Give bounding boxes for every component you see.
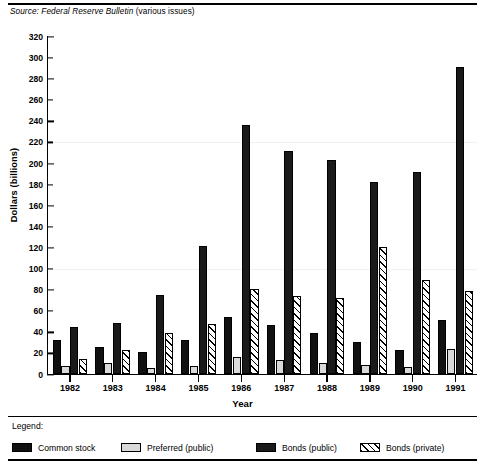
- bar-1984-bonds-private: [165, 333, 173, 374]
- x-tick-label-1985: 1985: [175, 383, 221, 393]
- y-tick-label: 100: [9, 264, 43, 274]
- x-tick-label-1986: 1986: [218, 383, 264, 393]
- x-tick-mark: [369, 375, 370, 382]
- bar-1989-preferred-public: [361, 365, 369, 374]
- x-tick-label-1991: 1991: [433, 383, 479, 393]
- bar-1990-common-stock: [395, 350, 403, 374]
- bar-1987-common-stock: [267, 325, 275, 374]
- legend-swatch-icon: [12, 443, 32, 452]
- bar-1988-bonds-private: [336, 298, 344, 374]
- x-tick-mark: [112, 375, 113, 382]
- y-tick-label: 0: [9, 370, 43, 380]
- source-note: Source: Federal Reserve Bulletin (variou…: [10, 7, 195, 16]
- x-tick-mark: [241, 375, 242, 382]
- x-tick-label-1983: 1983: [90, 383, 136, 393]
- y-tick-mark: [47, 374, 54, 375]
- bar-1987-bonds-private: [293, 296, 301, 374]
- y-tick-label: 260: [9, 95, 43, 105]
- legend-item-common-stock: Common stock: [12, 441, 95, 454]
- legend-items: Common stockPreferred (public)Bonds (pub…: [12, 441, 472, 455]
- bar-1990-preferred-public: [404, 367, 412, 374]
- legend-swatch-icon: [360, 443, 380, 452]
- bar-1985-bonds-public: [199, 246, 207, 374]
- bar-1983-bonds-private: [122, 350, 130, 374]
- bar-1983-preferred-public: [104, 363, 112, 374]
- bar-1985-bonds-private: [208, 324, 216, 374]
- bar-1986-preferred-public: [233, 357, 241, 374]
- bar-1984-preferred-public: [147, 368, 155, 374]
- bar-1982-common-stock: [53, 340, 61, 374]
- source-prefix: Source:: [10, 7, 39, 16]
- legend-label: Common stock: [38, 443, 95, 453]
- bars-layer: [49, 36, 477, 374]
- bar-1990-bonds-public: [413, 172, 421, 375]
- bar-1983-bonds-public: [113, 323, 121, 374]
- y-tick-label: 40: [9, 327, 43, 337]
- x-tick-mark: [455, 375, 456, 382]
- bar-1982-bonds-public: [70, 327, 78, 374]
- x-tick-label-1989: 1989: [347, 383, 393, 393]
- legend-item-bonds-private: Bonds (private): [360, 441, 444, 454]
- x-tick-label-1988: 1988: [304, 383, 350, 393]
- top-divider: [8, 3, 477, 5]
- x-tick-mark: [69, 375, 70, 382]
- bar-1991-bonds-public: [456, 67, 464, 374]
- bar-1986-bonds-private: [250, 289, 258, 374]
- x-tick-mark: [284, 375, 285, 382]
- y-tick-label: 80: [9, 285, 43, 295]
- legend-item-preferred-public: Preferred (public): [121, 441, 213, 454]
- legend-swatch-icon: [121, 443, 141, 452]
- bar-1987-preferred-public: [276, 360, 284, 374]
- bar-1986-bonds-public: [242, 125, 250, 374]
- y-tick-label: 140: [9, 222, 43, 232]
- y-tick-label: 160: [9, 201, 43, 211]
- bar-1989-bonds-private: [379, 247, 387, 374]
- x-tick-mark: [326, 375, 327, 382]
- legend-label: Preferred (public): [147, 443, 213, 453]
- bar-1991-bonds-private: [465, 291, 473, 374]
- legend-bottom-divider: [8, 459, 477, 461]
- bar-1991-common-stock: [438, 320, 446, 374]
- x-tick-mark: [155, 375, 156, 382]
- legend-title: Legend:: [12, 421, 43, 431]
- bar-1985-common-stock: [181, 340, 189, 374]
- y-tick-label: 240: [9, 116, 43, 126]
- x-tick-label-1987: 1987: [261, 383, 307, 393]
- bar-1989-bonds-public: [370, 182, 378, 374]
- bar-1985-preferred-public: [190, 366, 198, 374]
- x-tick-label-1982: 1982: [47, 383, 93, 393]
- y-tick-label: 180: [9, 180, 43, 190]
- bar-1988-preferred-public: [319, 363, 327, 374]
- bar-1982-bonds-private: [79, 359, 87, 374]
- bar-1988-bonds-public: [327, 160, 335, 374]
- legend-item-bonds-public: Bonds (public): [256, 441, 337, 454]
- bar-1986-common-stock: [224, 317, 232, 374]
- legend-swatch-icon: [256, 443, 276, 452]
- bar-1991-preferred-public: [447, 349, 455, 374]
- legend-label: Bonds (private): [386, 443, 444, 453]
- y-tick-label: 220: [9, 137, 43, 147]
- bar-1990-bonds-private: [422, 280, 430, 374]
- bar-1983-common-stock: [95, 347, 103, 374]
- source-publication: Federal Reserve Bulletin: [41, 7, 133, 16]
- x-tick-label-1990: 1990: [390, 383, 436, 393]
- y-tick-label: 20: [9, 348, 43, 358]
- y-tick-label: 60: [9, 306, 43, 316]
- bar-1987-bonds-public: [284, 151, 292, 374]
- bar-1988-common-stock: [310, 333, 318, 374]
- legend-top-divider: [8, 416, 477, 417]
- x-tick-mark: [198, 375, 199, 382]
- x-axis-title: Year: [0, 398, 485, 409]
- y-tick-label: 120: [9, 243, 43, 253]
- y-tick-label: 200: [9, 159, 43, 169]
- bar-1982-preferred-public: [61, 366, 69, 374]
- chart-page: Source: Federal Reserve Bulletin (variou…: [0, 0, 485, 465]
- bar-1984-common-stock: [138, 352, 146, 374]
- y-tick-label: 300: [9, 53, 43, 63]
- bar-1989-common-stock: [353, 342, 361, 374]
- x-tick-label-1984: 1984: [133, 383, 179, 393]
- source-suffix: (various issues): [136, 7, 195, 16]
- x-tick-mark: [412, 375, 413, 382]
- bar-1984-bonds-public: [156, 295, 164, 374]
- y-tick-label: 320: [9, 32, 43, 42]
